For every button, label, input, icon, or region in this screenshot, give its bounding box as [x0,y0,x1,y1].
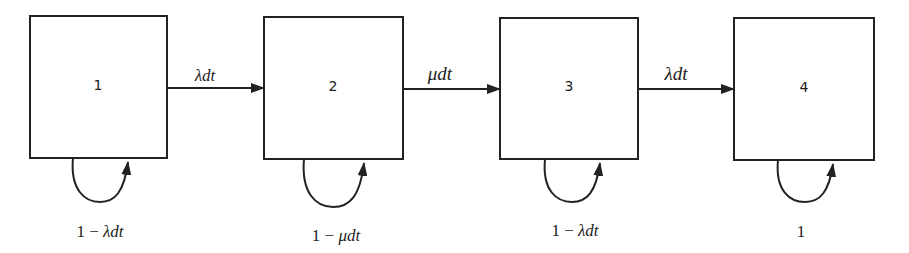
loop-arrow-icon [778,160,833,202]
state-label: 1 [94,77,103,93]
loop-arrow-icon [304,159,364,207]
state-label: 4 [800,79,809,95]
self-loop-label: 1 [797,222,806,241]
transition-label: λdt [194,66,217,85]
state-1: 1 [30,16,167,158]
transition-1-2: λdt [167,66,264,88]
self-loop-4: 1 [778,160,833,241]
transition-3-4: λdt [638,63,734,89]
state-4: 4 [734,18,874,160]
transition-label: λdt [663,63,688,84]
loop-arrow-icon [545,159,600,202]
self-loop-label: 1 − μdt [312,226,362,245]
transition-2-3: μdt [403,63,500,89]
self-loop-label: 1 − λdt [551,221,599,240]
state-3: 3 [500,18,638,159]
state-label: 2 [329,78,338,94]
state-label: 3 [565,78,574,94]
self-loop-2: 1 − μdt [304,159,364,245]
state-2: 2 [264,17,403,159]
transition-label: μdt [427,63,453,84]
self-loop-1: 1 − λdt [73,158,128,241]
loop-arrow-icon [73,158,128,202]
markov-chain-diagram: 1 2 3 4 λdt μdt λdt 1 − λdt 1 − μdt 1 − … [0,0,909,253]
self-loop-label: 1 − λdt [76,222,124,241]
self-loop-3: 1 − λdt [545,159,600,240]
